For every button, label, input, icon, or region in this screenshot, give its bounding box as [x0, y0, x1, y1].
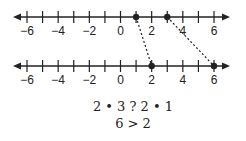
result-inequality: 6 > 2: [115, 117, 151, 131]
tick-label: −4: [51, 74, 65, 86]
left-arrow-icon: [13, 14, 21, 21]
tick-label: 6: [211, 74, 218, 86]
tick-label: −6: [20, 25, 34, 37]
tick-label: 4: [179, 74, 186, 86]
tick-label: 6: [211, 25, 218, 37]
tick-label: 2: [148, 74, 155, 86]
mapping-dashed-line: [167, 17, 214, 66]
right-arrow-icon: [222, 14, 230, 21]
tick-label: 0: [117, 25, 124, 37]
tick-label: 4: [179, 25, 186, 37]
tick-label: 2: [148, 25, 155, 37]
right-arrow-icon: [222, 63, 230, 70]
number-line-diagram: −6−4−20246−6−4−20246 2 • 3 ? 2 • 1 6 > 2: [0, 0, 246, 141]
tick-label: −4: [51, 25, 65, 37]
tick-label: −2: [82, 74, 96, 86]
comparison-expression: 2 • 3 ? 2 • 1: [93, 100, 173, 114]
left-arrow-icon: [13, 63, 21, 70]
tick-label: −6: [20, 74, 34, 86]
tick-label: 0: [117, 74, 124, 86]
tick-label: −2: [82, 25, 96, 37]
